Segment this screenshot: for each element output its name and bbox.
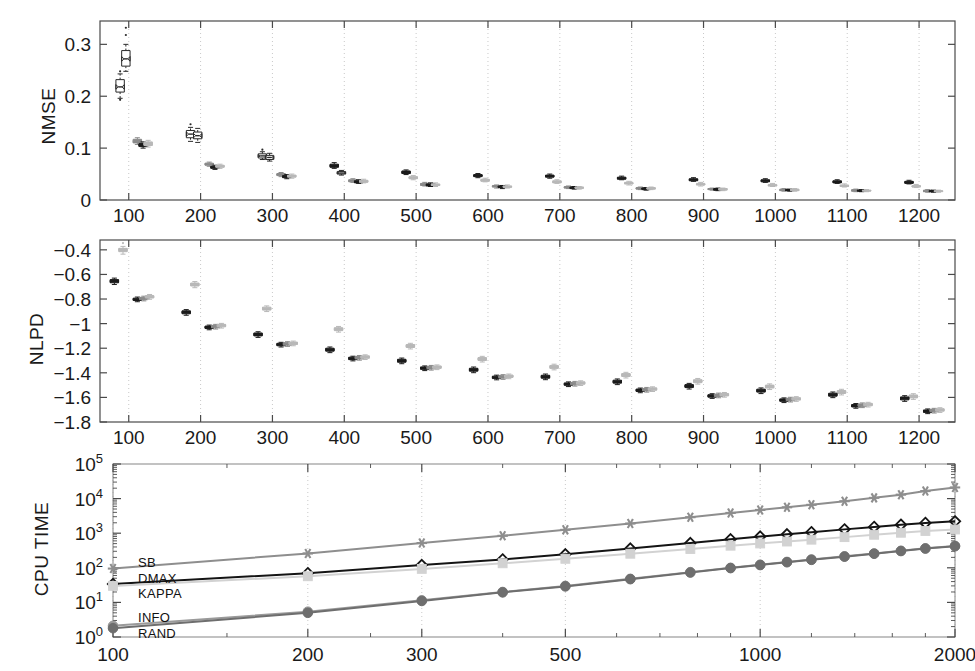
marker-star xyxy=(685,513,695,522)
tick-label-y: −1.4 xyxy=(53,363,91,384)
marker-circle xyxy=(840,552,850,562)
boxplot-rand xyxy=(909,394,917,400)
legend-label-kappa: KAPPA xyxy=(138,586,182,601)
tick-label-y: 101 xyxy=(75,589,103,613)
tick-label-y: −1.6 xyxy=(53,387,91,408)
tick-label-x: 1100 xyxy=(827,427,868,448)
series-dmax xyxy=(108,516,960,589)
marker-circle xyxy=(950,541,960,551)
boxplot-info xyxy=(110,278,118,284)
boxplot-kappa xyxy=(216,164,224,168)
tick-label-x: 300 xyxy=(257,205,289,226)
legend-label-sb: SB xyxy=(138,555,156,570)
tick-label-x: 200 xyxy=(185,205,217,226)
legend-label-info: INFO xyxy=(138,610,170,625)
boxplot-info xyxy=(757,388,765,394)
marker-square xyxy=(783,537,792,546)
tick-label-y: 104 xyxy=(75,486,103,510)
boxplot-rand xyxy=(840,184,848,187)
marker-square xyxy=(840,533,849,542)
marker-circle xyxy=(921,544,931,554)
tick-label-y: −1.2 xyxy=(53,338,91,359)
panel-nmse: NMSE 00.10.20.31002003004005006007008009… xyxy=(0,0,975,228)
boxplot-info xyxy=(546,174,554,178)
marker-star xyxy=(782,503,792,512)
tick-label-x: 300 xyxy=(257,427,289,448)
marker-square xyxy=(870,530,879,539)
marker-circle xyxy=(498,588,508,598)
tick-label-x: 100 xyxy=(113,427,145,448)
marker-square xyxy=(951,525,960,534)
boxplot-rand xyxy=(768,183,776,186)
tick-label-x: 1200 xyxy=(898,427,940,448)
legend-label-dmax: DMAX xyxy=(138,571,177,586)
boxplot-rand xyxy=(334,326,342,332)
boxplot-kappa xyxy=(647,187,655,190)
tick-label-x: 1000 xyxy=(739,644,781,665)
boxplot-info xyxy=(402,170,410,175)
boxplot-info xyxy=(116,70,124,101)
outlier-point xyxy=(119,70,121,72)
marker-square xyxy=(897,528,906,537)
plot-frame xyxy=(113,464,955,637)
tick-label-y: 0.2 xyxy=(65,86,91,107)
marker-square xyxy=(561,554,570,563)
boxplot-rand xyxy=(406,343,414,349)
outlier-point xyxy=(125,34,127,36)
tick-label-x: 1000 xyxy=(754,427,796,448)
plot-frame xyxy=(100,21,955,200)
boxplot-info xyxy=(689,178,697,182)
boxplot-info xyxy=(398,358,406,364)
boxplot-info xyxy=(613,379,621,385)
marker-star xyxy=(417,539,427,548)
tick-label-x: 900 xyxy=(688,427,720,448)
boxplot-kappa xyxy=(575,187,583,190)
tick-label-y: −0.4 xyxy=(53,240,91,261)
plot-nmse: 00.10.20.3100200300400500600700800900100… xyxy=(0,0,975,228)
boxplot-rand xyxy=(625,181,633,185)
boxplot-info xyxy=(469,367,477,373)
boxplot-kappa xyxy=(431,183,439,187)
tick-label-x: 1200 xyxy=(898,205,940,226)
marker-circle xyxy=(896,546,906,556)
marker-star xyxy=(497,531,507,540)
tick-label-x: 200 xyxy=(292,644,324,665)
series-sb xyxy=(108,483,960,573)
tick-label-y: 103 xyxy=(75,520,103,544)
boxplot-kappa xyxy=(862,190,870,192)
boxplot-rand xyxy=(912,184,920,187)
boxplot-info xyxy=(326,347,334,353)
marker-star xyxy=(869,493,879,502)
outlier-point xyxy=(261,149,263,151)
tick-label-x: 600 xyxy=(472,427,504,448)
marker-square xyxy=(921,527,930,536)
marker-circle xyxy=(807,555,817,565)
boxplot-rand xyxy=(337,170,345,175)
tick-label-y: 102 xyxy=(75,555,103,579)
marker-star xyxy=(625,519,635,528)
marker-circle xyxy=(782,557,792,567)
marker-circle xyxy=(726,563,736,573)
marker-square xyxy=(109,581,118,590)
marker-square xyxy=(686,545,695,554)
marker-square xyxy=(756,539,765,548)
boxplot-kappa xyxy=(359,179,367,183)
marker-circle xyxy=(755,560,765,570)
boxplot-info xyxy=(617,176,625,180)
tick-label-x: 900 xyxy=(688,205,720,226)
boxplot-rand xyxy=(694,378,702,384)
marker-star xyxy=(806,500,816,509)
boxplot-info xyxy=(330,163,338,169)
panel-cputime: CPU TIME 1001011021031041051002003005001… xyxy=(0,448,975,671)
marker-circle xyxy=(626,574,636,584)
tick-label-y: −0.6 xyxy=(53,264,91,285)
tick-label-y: 0.1 xyxy=(65,138,91,159)
legend-label-rand: RAND xyxy=(138,626,176,641)
plot-nlpd: −0.4−0.6−0.8−1−1.2−1.4−1.6−1.81002003004… xyxy=(0,228,975,448)
marker-circle xyxy=(417,596,427,606)
boxplot-kappa xyxy=(791,189,799,192)
marker-circle xyxy=(303,608,313,618)
boxplot-rand xyxy=(553,180,561,184)
axis-label-nlpd: NLPD xyxy=(26,284,48,394)
series-line xyxy=(113,521,955,584)
